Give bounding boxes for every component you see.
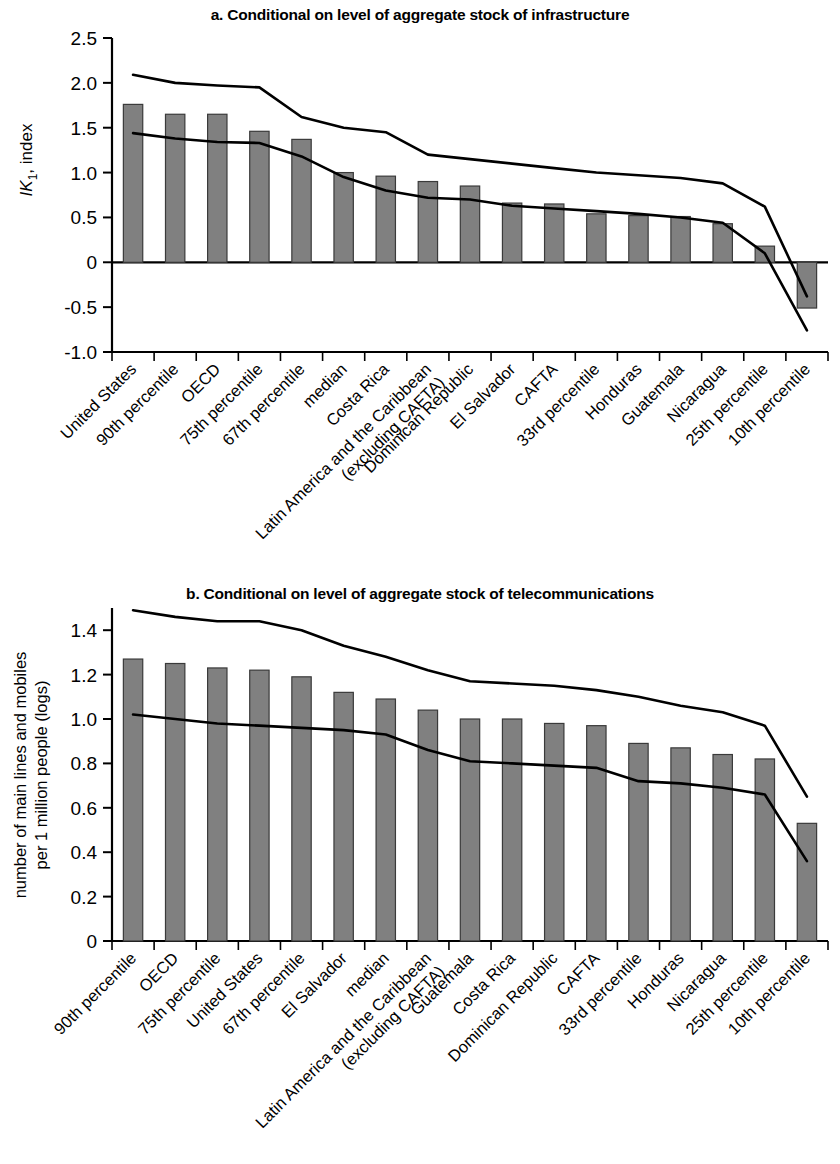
- x-tick-label: 90th percentile: [50, 949, 139, 1038]
- y-tick-label: 2.5: [71, 28, 97, 49]
- y-tick-label: 0.2: [71, 887, 97, 908]
- bar: [713, 755, 732, 941]
- bar: [502, 203, 521, 262]
- bar: [334, 173, 353, 263]
- y-tick-label: 2.0: [71, 73, 97, 94]
- panel-b-title: b. Conditional on level of aggregate sto…: [0, 585, 840, 603]
- bar: [545, 723, 564, 941]
- bar: [418, 710, 437, 941]
- y-tick-label: 0.8: [71, 753, 97, 774]
- bar: [502, 719, 521, 941]
- y-axis-title: IK1, index: [17, 123, 40, 196]
- y-tick-label: 1.2: [71, 665, 97, 686]
- bar: [713, 224, 732, 263]
- bar: [292, 677, 311, 941]
- x-tick-label-group: 90th percentile: [50, 949, 139, 1038]
- bar: [208, 668, 227, 941]
- bar: [755, 759, 774, 941]
- bar: [460, 719, 479, 941]
- y-tick-label: 1.0: [71, 163, 97, 184]
- bar: [671, 217, 690, 263]
- y-tick-label: 1.4: [71, 620, 98, 641]
- y-tick-label: 0: [86, 931, 97, 952]
- bar: [629, 743, 648, 941]
- panel-a-title: a. Conditional on level of aggregate sto…: [0, 6, 840, 24]
- figure-page: a. Conditional on level of aggregate sto…: [0, 0, 840, 1164]
- y-tick-label: 0.4: [71, 842, 98, 863]
- panel-b: b. Conditional on level of aggregate sto…: [0, 580, 840, 1164]
- bar: [250, 670, 269, 941]
- y-tick-label: 1.5: [71, 118, 97, 139]
- bar: [587, 214, 606, 262]
- bar: [460, 186, 479, 262]
- bar: [123, 104, 142, 262]
- y-axis-title: number of main lines and mobilesper 1 mi…: [11, 652, 50, 899]
- y-tick-label: 0.5: [71, 207, 97, 228]
- bar: [165, 664, 184, 942]
- y-tick-label: 1.0: [71, 709, 97, 730]
- y-tick-label: 0.6: [71, 798, 97, 819]
- bar: [797, 262, 816, 308]
- bar: [671, 748, 690, 941]
- bar: [587, 726, 606, 941]
- bar: [208, 114, 227, 262]
- bar: [545, 204, 564, 262]
- bar: [123, 659, 142, 941]
- bar: [418, 182, 437, 263]
- plot-area: -1.0-0.500.51.01.52.02.5United States90t…: [17, 28, 828, 556]
- panel-a: a. Conditional on level of aggregate sto…: [0, 0, 840, 560]
- bar: [797, 823, 816, 941]
- y-tick-label: -0.5: [64, 297, 97, 318]
- bar: [629, 216, 648, 263]
- panel-b-chart: 00.20.40.60.81.01.21.490th percentileOEC…: [0, 580, 840, 1164]
- bar: [250, 131, 269, 262]
- panel-a-chart: -1.0-0.500.51.01.52.02.5United States90t…: [0, 0, 840, 560]
- y-tick-label: 0: [86, 252, 97, 273]
- plot-area: 00.20.40.60.81.01.21.490th percentileOEC…: [11, 608, 828, 1145]
- y-tick-label: -1.0: [64, 342, 97, 363]
